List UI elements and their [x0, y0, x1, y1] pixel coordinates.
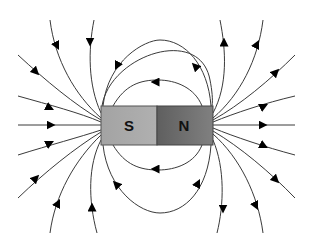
field-line: [213, 128, 295, 155]
magnetic-field-diagram: S N: [0, 0, 313, 249]
field-line-inner: [113, 145, 202, 170]
field-line: [18, 55, 101, 120]
field-line-inner: [113, 80, 202, 106]
field-line: [90, 20, 101, 113]
field-line: [213, 55, 295, 120]
right-field-lines: [213, 20, 295, 233]
field-line: [213, 131, 295, 198]
field-line: [91, 140, 101, 233]
bar-magnet: S N: [101, 106, 213, 145]
bottom-loop-lines: [103, 145, 211, 213]
field-line: [18, 132, 101, 198]
field-line: [213, 20, 224, 113]
field-line: [18, 130, 101, 155]
field-line: [213, 140, 222, 233]
field-line: [213, 96, 295, 122]
left-field-lines: [18, 20, 101, 233]
north-pole-label: N: [179, 117, 190, 134]
top-loop-lines: [102, 40, 212, 106]
field-line-outer: [103, 145, 211, 213]
field-line: [18, 96, 101, 122]
field-lines-svg: S N: [0, 0, 313, 249]
field-line: [213, 20, 263, 118]
south-pole-label: S: [124, 117, 134, 134]
